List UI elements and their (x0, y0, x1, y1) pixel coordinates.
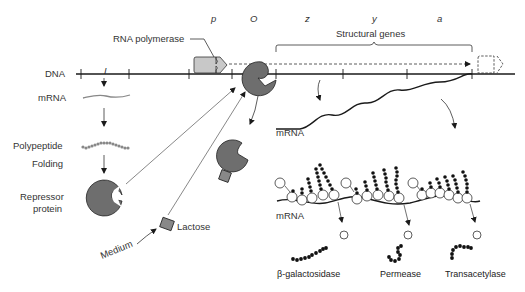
folding-label: Folding (32, 158, 63, 169)
product-label-permease: Permease (380, 269, 421, 279)
mrna-polysome-label: mRNA (276, 210, 305, 221)
repressor-label-line2: protein (33, 203, 62, 214)
rna-polymerase-label: RNA polymerase (113, 33, 184, 44)
lac-operon-diagram: I p O z y a Structural genes RNA polymer… (0, 0, 525, 292)
structural-genes-label: Structural genes (336, 28, 405, 39)
beta-galactosidase-chain-icon (291, 246, 328, 262)
medium-arrow (137, 229, 156, 244)
structural-genes-brace (276, 42, 472, 52)
transacetylase-chain-icon (450, 244, 473, 260)
lactose-label: Lactose (177, 221, 210, 232)
gene-label-p: p (210, 13, 216, 24)
i-mrna-strand (83, 95, 130, 98)
gene-label-z: z (304, 13, 310, 24)
product-label-beta-galactosidase: β-galactosidase (277, 269, 340, 279)
gene-label-a: a (437, 13, 442, 24)
repressor-on-operator-icon (240, 55, 276, 96)
release-arrow-2 (404, 205, 409, 225)
permease-chain-icon (387, 244, 403, 263)
transcription-arrow (318, 80, 320, 100)
translation-arrow (441, 99, 455, 128)
free-ribosomes (340, 231, 481, 239)
rna-polymerase-leader (190, 39, 214, 57)
polypeptide-label: Polypeptide (13, 140, 63, 151)
rna-polymerase-icon (194, 57, 227, 73)
nascent-chains-z (291, 163, 334, 195)
gene-label-y: y (371, 13, 378, 24)
nascent-chains-y (354, 166, 400, 195)
repressor-binding-line (126, 88, 235, 184)
inactivation-arrow (250, 96, 258, 124)
rna-polymerase-ghost-icon (478, 56, 503, 73)
dna-label: DNA (45, 68, 66, 79)
repressor-label-line1: Repressor (20, 191, 64, 202)
product-label-transacetylase: Transacetylase (445, 269, 506, 279)
mrna-left-label: mRNA (38, 92, 67, 103)
release-arrow-1 (338, 202, 342, 222)
mrna-transcript (276, 74, 472, 129)
gene-label-o: O (250, 13, 258, 24)
repressor-lactose-complex-icon (217, 140, 248, 183)
polypeptide-chain-icon (81, 141, 129, 149)
release-arrow-3 (470, 204, 475, 222)
lactose-molecule-icon (160, 217, 175, 231)
diagram-canvas: I p O z y a Structural genes RNA polymer… (0, 0, 525, 292)
medium-label: Medium (99, 238, 135, 261)
